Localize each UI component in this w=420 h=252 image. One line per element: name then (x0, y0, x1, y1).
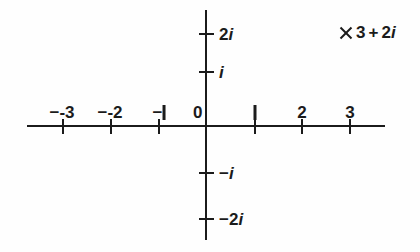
tick-label-x-neg1: − -1 (153, 104, 166, 121)
tick-label-x-pos3: 3 (345, 104, 354, 121)
complex-plane-figure: −-3 −-2 − -1 1 2 3 0 2i 2i i i −i -i −2i… (0, 0, 420, 252)
point-label-3-plus-2i: 3+2i (356, 24, 396, 41)
point-marker-cross-icon (338, 25, 354, 41)
digit-one-glyph (254, 105, 257, 120)
tick-y-pos1i (199, 71, 214, 73)
minus-sign-icon: − (97, 103, 107, 122)
tick-label-y-pos1i: i i (219, 64, 224, 81)
tick-label-y-neg1i: −i -i (219, 165, 234, 182)
tick-label-x-neg2: −-2 (97, 104, 122, 121)
digit-one-glyph (162, 105, 165, 120)
tick-x-pos1 (254, 119, 256, 134)
tick-label-y-pos2i: 2i 2i (219, 26, 233, 43)
imaginary-axis-line (205, 10, 207, 240)
minus-sign-icon: − (219, 164, 229, 183)
tick-label-x-pos1: 1 (254, 104, 257, 121)
tick-label-x-neg3: −-3 (49, 104, 74, 121)
minus-sign-icon: − (153, 103, 163, 122)
tick-y-neg2i (199, 218, 214, 220)
minus-sign-icon: − (49, 103, 59, 122)
tick-y-pos2i (199, 33, 214, 35)
minus-sign-icon: − (219, 210, 229, 229)
tick-y-neg1i (199, 172, 214, 174)
tick-label-x-pos2: 2 (297, 104, 306, 121)
tick-label-y-neg2i: −2i -2i (219, 211, 243, 228)
origin-label: 0 (193, 104, 202, 121)
